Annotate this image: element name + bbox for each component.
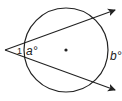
arc-b-label: b° <box>110 49 122 63</box>
diagram-canvas: 1 a° b° <box>0 0 122 101</box>
lower-secant-ray <box>5 50 115 90</box>
center-point <box>64 48 67 51</box>
geometry-diagram: 1 a° b° <box>0 0 122 101</box>
upper-secant-ray <box>5 10 115 50</box>
arc-a-label: a° <box>26 44 38 58</box>
angle-mark-label: 1 <box>17 46 22 56</box>
